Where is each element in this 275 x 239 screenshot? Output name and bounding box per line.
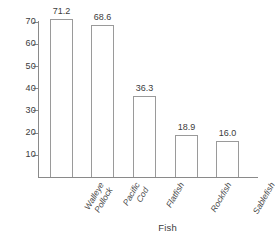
x-axis-tick-label: PacificCod [121,181,150,212]
x-axis-tick-label: Flatfish [164,181,186,209]
x-axis-tick-label-line: Sablefish [251,181,275,216]
x-axis-tick-label: Sablefish [251,181,275,216]
x-axis-tick-label-line: Rockfish [209,181,234,214]
bar [216,141,239,177]
x-axis-tick-label-line: Flatfish [164,181,186,209]
y-axis-tick-label: 60 [26,39,36,48]
x-axis-tick-label: Rockfish [209,181,234,214]
bar [133,96,156,177]
bar-value-label: 71.2 [42,7,81,16]
x-axis-line [38,177,258,178]
bar-value-label: 36.3 [125,84,164,93]
y-axis-tick-label: 20 [26,128,36,137]
bar-value-label: 68.6 [83,13,122,22]
bar-value-label: 16.0 [208,129,247,138]
y-axis-tick-label: 70 [26,17,36,26]
bar [91,25,114,177]
x-axis-title-text: Fish [158,222,177,233]
bar [50,19,73,177]
x-axis-title: Fish [0,222,275,233]
y-axis-tick-label: 40 [26,84,36,93]
y-axis-tick-label: 50 [26,62,36,71]
y-axis-tick-label: 30 [26,106,36,115]
bar [175,135,198,177]
x-axis-tick-label: WalleyePollock [83,181,114,217]
y-axis-tick-label: 10 [26,150,36,159]
bar-value-label: 18.9 [167,123,206,132]
bar-chart: 70605040302010 71.268.636.318.916.0 Wall… [0,0,275,239]
